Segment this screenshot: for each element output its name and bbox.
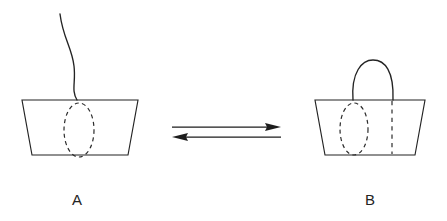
reverse-arrow-head-icon (172, 133, 188, 141)
arched-handle-icon (353, 60, 393, 100)
state-a-label: A (72, 191, 82, 208)
diagram-canvas: A B (0, 0, 447, 221)
state-b-label: B (365, 191, 375, 208)
basket-a-dashed-ellipse (64, 103, 94, 157)
slack-string-handle-icon (60, 14, 77, 100)
basket-b-outline (315, 100, 425, 155)
forward-arrow-head-icon (265, 123, 281, 131)
equilibrium-diagram: A B (0, 0, 447, 221)
basket-a-outline (22, 100, 138, 155)
state-b-group: B (315, 60, 425, 208)
basket-b-dashed-ellipse (340, 103, 368, 155)
state-a-group: A (22, 14, 138, 208)
equilibrium-arrows (172, 123, 281, 141)
